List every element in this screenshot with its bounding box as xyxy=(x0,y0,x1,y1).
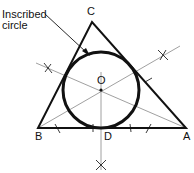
triangle-abc xyxy=(38,22,186,128)
center-point-o xyxy=(99,88,102,91)
callout-label-line2: circle xyxy=(2,19,28,31)
vertex-label-b: B xyxy=(35,130,42,142)
construction-marks xyxy=(44,50,168,170)
tangent-label-d: D xyxy=(104,130,112,142)
vertex-label-a: A xyxy=(183,130,191,142)
center-label-o: O xyxy=(97,74,106,86)
arc-mark-right xyxy=(158,50,168,60)
bisector-from-a xyxy=(36,63,186,128)
callout-leader xyxy=(45,14,86,52)
tick-ca xyxy=(145,78,152,82)
arc-mark-left xyxy=(44,63,52,73)
inscribed-circle-diagram: Inscribed circle C O B D A xyxy=(0,0,194,173)
vertex-label-c: C xyxy=(87,5,95,17)
